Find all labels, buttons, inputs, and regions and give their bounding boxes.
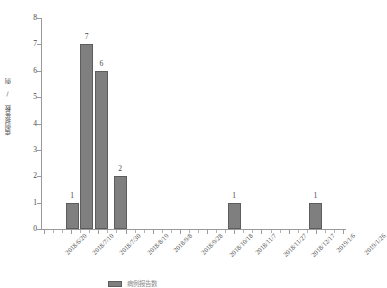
bar-value-label: 1 (224, 192, 244, 200)
y-tick-mark (37, 124, 42, 125)
legend-label: 病例报告数 (127, 281, 157, 287)
x-tick-label: 2018/6/20 (64, 232, 88, 256)
y-tick-label: 5 (17, 93, 37, 101)
y-tick-mark (37, 176, 42, 177)
x-axis-tick-labels: 2018/6/202018/7/102018/7/302018/8/192018… (41, 232, 363, 278)
bar (114, 176, 127, 229)
plot-area: 012345678 176211 (41, 18, 346, 230)
x-tick-label: 2018/10/18 (228, 232, 254, 258)
bar (228, 203, 241, 229)
x-tick-label: 2018/11/27 (282, 232, 308, 258)
x-tick-label: 2018/7/10 (91, 232, 115, 256)
x-tick-label: 2018/8/19 (145, 232, 169, 256)
x-tick-label: 2018/11/7 (254, 232, 278, 256)
y-tick-label: 3 (17, 146, 37, 154)
y-tick-mark (37, 229, 42, 230)
x-tick-label: 2019/1/26 (363, 232, 387, 256)
y-tick-label: 8 (17, 14, 37, 22)
bar (66, 203, 79, 229)
bar-value-label: 7 (77, 33, 97, 41)
legend-swatch (108, 281, 122, 287)
bar-value-label: 6 (91, 60, 111, 68)
legend: 病例报告数 (108, 281, 157, 287)
bar-value-label: 1 (62, 192, 82, 200)
y-tick-mark (37, 97, 42, 98)
bar-value-label: 2 (110, 165, 130, 173)
y-tick-label: 6 (17, 67, 37, 75)
bar (309, 203, 322, 229)
x-tick-label: 2019/1/6 (335, 232, 357, 254)
y-tick-label: 1 (17, 199, 37, 207)
x-tick-label: 2018/9/8 (172, 232, 194, 254)
x-axis-line (41, 229, 346, 230)
x-tick-label: 2018/12/17 (309, 232, 335, 258)
bar (95, 71, 108, 229)
y-tick-mark (37, 44, 42, 45)
y-tick-mark (37, 18, 42, 19)
bar (80, 44, 93, 229)
y-axis-label: 病例报告数 / 例 (4, 78, 18, 135)
y-tick-label: 0 (17, 225, 37, 233)
x-tick-label: 2018/9/28 (200, 232, 224, 256)
x-tick-label: 2018/7/30 (118, 232, 142, 256)
y-tick-mark (37, 203, 42, 204)
bar-value-label: 1 (305, 192, 325, 200)
y-tick-label: 7 (17, 41, 37, 49)
y-tick-mark (37, 150, 42, 151)
y-tick-label: 4 (17, 120, 37, 128)
y-tick-label: 2 (17, 172, 37, 180)
y-tick-mark (37, 71, 42, 72)
